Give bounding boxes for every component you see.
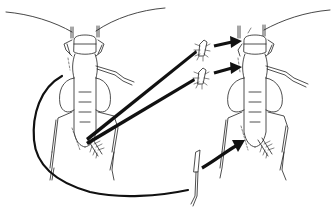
host-abdomen bbox=[244, 78, 266, 147]
arrow-to-host-thorax bbox=[214, 62, 242, 74]
cricket-transplant-figure bbox=[0, 0, 332, 214]
donor-midleg-right bbox=[96, 66, 134, 85]
donor-hindleg-left bbox=[50, 112, 72, 180]
donor-antenna-right bbox=[96, 8, 165, 31]
transplanted-cercus-1 bbox=[194, 40, 210, 61]
host-thorax bbox=[243, 54, 268, 78]
donor-foreleg-left bbox=[64, 40, 72, 56]
connector-curve bbox=[34, 76, 188, 196]
host-antenna-right bbox=[264, 10, 330, 30]
host-foreleg-left-stub bbox=[238, 44, 242, 56]
arrow-to-host-abdomen bbox=[202, 140, 245, 168]
transplanted-leg-segment bbox=[191, 150, 200, 206]
donor-palp-right bbox=[97, 26, 99, 37]
host-foreleg-right bbox=[266, 40, 274, 56]
host-cercus bbox=[258, 138, 274, 158]
host-midleg-right bbox=[266, 66, 308, 87]
connector-line-upper bbox=[86, 50, 197, 141]
donor-thorax bbox=[73, 54, 98, 78]
donor-wing-right bbox=[96, 78, 110, 112]
diagram-canvas bbox=[0, 0, 332, 214]
host-wing-left bbox=[228, 78, 244, 112]
donor-palp-left bbox=[71, 27, 73, 38]
host-wing-right bbox=[266, 78, 282, 112]
host-head bbox=[244, 35, 266, 54]
host-cricket bbox=[220, 10, 330, 180]
donor-antenna-left bbox=[6, 12, 72, 32]
donor-foreleg-right bbox=[96, 40, 104, 56]
donor-head bbox=[74, 35, 96, 54]
transplanted-cercus-2 bbox=[193, 68, 209, 89]
connector-line-lower bbox=[86, 78, 195, 145]
host-hindleg-right bbox=[268, 112, 288, 180]
donor-wing-left bbox=[60, 78, 74, 112]
